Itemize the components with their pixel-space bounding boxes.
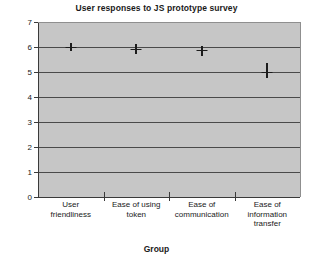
y-tick-label-0: 0: [0, 193, 32, 202]
y-tick-mark-6: [34, 47, 38, 48]
gridline-y-3: [39, 122, 300, 123]
y-tick-label-4: 4: [0, 93, 32, 102]
x-axis-label: Group: [0, 244, 313, 254]
chart-title: User responses to JS prototype survey: [0, 3, 313, 13]
y-tick-mark-3: [34, 122, 38, 123]
y-tick-label-7: 7: [0, 18, 32, 27]
gridline-y-2: [39, 147, 300, 148]
y-tick-mark-2: [34, 147, 38, 148]
y-tick-mark-7: [34, 22, 38, 23]
plot-border-right: [300, 22, 301, 197]
y-tick-mark-0: [34, 197, 38, 198]
y-tick-mark-5: [34, 72, 38, 73]
gridline-y-1: [39, 172, 300, 173]
data-point-3: [259, 63, 275, 78]
marker-cross-1: [131, 49, 142, 50]
data-point-0: [63, 43, 79, 51]
x-category-label-1: Ease of usingtoken: [104, 200, 170, 219]
y-tick-label-6: 6: [0, 43, 32, 52]
y-tick-label-1: 1: [0, 168, 32, 177]
data-point-1: [128, 44, 144, 54]
y-tick-label-5: 5: [0, 68, 32, 77]
x-category-label-0: Userfriendliness: [38, 200, 104, 219]
y-tick-label-2: 2: [0, 143, 32, 152]
x-category-label-2: Ease ofcommunication: [169, 200, 235, 219]
plot-border-top: [38, 22, 300, 23]
chart-figure: User responses to JS prototype survey Ra…: [0, 0, 313, 263]
marker-cross-3: [262, 72, 273, 73]
y-tick-label-3: 3: [0, 118, 32, 127]
x-category-label-3: Ease ofinformationtransfer: [235, 200, 301, 229]
gridline-y-4: [39, 97, 300, 98]
error-bar-3: [266, 63, 268, 78]
data-point-2: [194, 46, 210, 56]
y-tick-mark-4: [34, 97, 38, 98]
marker-cross-2: [196, 50, 207, 51]
y-tick-mark-1: [34, 172, 38, 173]
marker-cross-0: [65, 47, 76, 48]
